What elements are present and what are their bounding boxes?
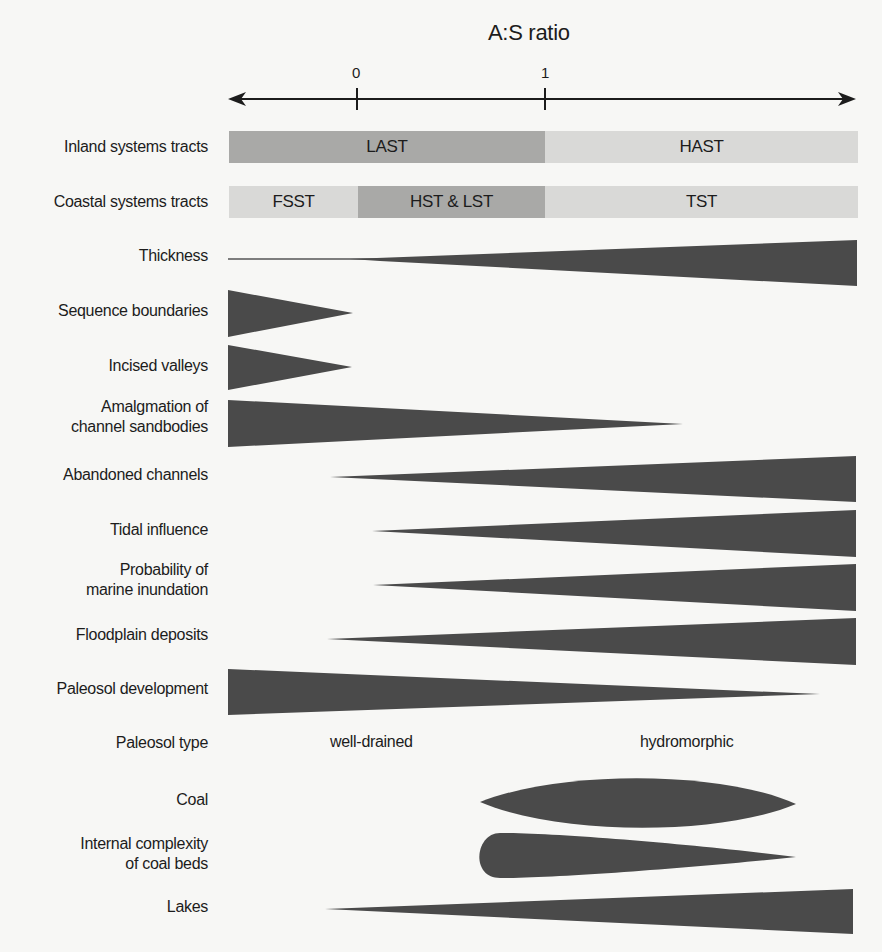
paleosol-development-wedge <box>228 669 820 715</box>
label-marine-inundation-line1: Probability of <box>86 560 208 580</box>
label-coal: Coal <box>176 790 208 810</box>
segment-label-fsst: FSST <box>272 192 314 212</box>
segment-label-tst: TST <box>686 192 717 212</box>
label-amalgamation: Amalgmation of channel sandbodies <box>71 397 208 437</box>
label-amalgamation-line2: channel sandbodies <box>71 417 208 437</box>
amalgamation-wedge <box>228 400 683 447</box>
paleosol-type-hydromorphic: hydromorphic <box>640 733 733 751</box>
lakes-wedge <box>325 889 853 934</box>
coal-lens <box>480 778 796 828</box>
label-paleosol-development: Paleosol development <box>57 679 208 699</box>
label-coastal-systems-tracts: Coastal systems tracts <box>54 192 208 212</box>
sequence-boundaries-wedge <box>228 290 353 337</box>
bar-segment-hst-lst: HST & LST <box>358 186 545 218</box>
label-lakes: Lakes <box>167 897 208 917</box>
label-marine-inundation: Probability of marine inundation <box>86 560 208 600</box>
label-amalgamation-line1: Amalgmation of <box>71 397 208 417</box>
label-floodplain-deposits: Floodplain deposits <box>76 625 208 645</box>
floodplain-deposits-wedge <box>327 618 856 665</box>
label-paleosol-type: Paleosol type <box>116 733 208 753</box>
tidal-influence-wedge <box>372 510 856 557</box>
segment-label-hast: HAST <box>679 137 723 157</box>
label-abandoned-channels: Abandoned channels <box>63 465 208 485</box>
bar-segment-last: LAST <box>229 131 545 163</box>
label-incised-valleys: Incised valleys <box>108 356 208 376</box>
label-tidal-influence: Tidal influence <box>110 520 208 540</box>
coal-complexity-teardrop <box>479 833 796 878</box>
bar-segment-fsst: FSST <box>229 186 358 218</box>
bar-segment-tst: TST <box>545 186 858 218</box>
label-coal-complexity: Internal complexity of coal beds <box>80 834 208 874</box>
label-inland-systems-tracts: Inland systems tracts <box>64 137 208 157</box>
thickness-wedge <box>228 240 857 286</box>
marine-inundation-wedge <box>373 564 856 611</box>
label-marine-inundation-line2: marine inundation <box>86 580 208 600</box>
label-coal-complexity-line2: of coal beds <box>80 854 208 874</box>
segment-label-last: LAST <box>366 137 407 157</box>
segment-label-hst-lst: HST & LST <box>410 192 493 212</box>
axis-arrow <box>228 88 856 110</box>
incised-valleys-wedge <box>228 345 352 390</box>
label-sequence-boundaries: Sequence boundaries <box>58 301 208 321</box>
abandoned-channels-wedge <box>330 456 856 502</box>
paleosol-type-well-drained: well-drained <box>330 733 413 751</box>
bar-segment-hast: HAST <box>545 131 858 163</box>
label-thickness: Thickness <box>139 246 208 266</box>
label-coal-complexity-line1: Internal complexity <box>80 834 208 854</box>
